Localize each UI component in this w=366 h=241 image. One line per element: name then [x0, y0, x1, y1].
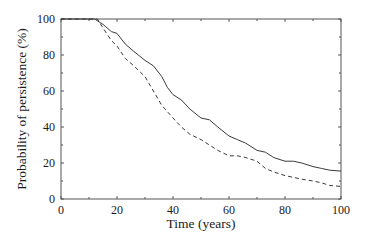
x-tick-labels: 020406080100 [58, 203, 350, 217]
solid-series-line [61, 19, 341, 171]
x-tick-label: 20 [111, 203, 123, 217]
y-tick-label: 60 [43, 84, 55, 98]
x-tick-label: 60 [223, 203, 235, 217]
x-tick-label: 80 [279, 203, 291, 217]
persistence-chart: 020406080100 020406080100 Time (years) P… [0, 0, 366, 241]
x-tick-label: 100 [332, 203, 350, 217]
dashed-series-line [61, 19, 341, 186]
plot-frame [61, 19, 341, 199]
y-tick-label: 20 [43, 156, 55, 170]
y-tick-labels: 020406080100 [37, 12, 55, 206]
axis-ticks [61, 19, 341, 199]
y-tick-label: 100 [37, 12, 55, 26]
x-tick-label: 0 [58, 203, 64, 217]
y-axis-label: Probability of persistence (%) [14, 28, 29, 190]
x-axis-label: Time (years) [167, 216, 236, 231]
y-tick-label: 0 [49, 192, 55, 206]
x-tick-label: 40 [167, 203, 179, 217]
y-tick-label: 40 [43, 120, 55, 134]
y-tick-label: 80 [43, 48, 55, 62]
